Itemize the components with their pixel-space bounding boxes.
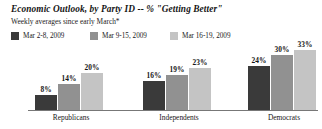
- bar-independents-series-2[interactable]: 23%: [189, 68, 211, 110]
- bar-republicans-series-2[interactable]: 20%: [81, 73, 103, 110]
- x-axis-line: [28, 110, 318, 111]
- bar-group-republicans: 8% 14% 20% Republicans: [35, 46, 107, 110]
- chart-title: Economic Outlook, by Party ID -- % "Gett…: [11, 4, 222, 14]
- x-axis-label-independents: Independents: [159, 113, 198, 122]
- legend-item-series-1[interactable]: Mar 9-15, 2009: [90, 32, 147, 40]
- chart-legend: Mar 2-8, 2009 Mar 9-15, 2009 Mar 16-19, …: [11, 32, 311, 44]
- legend-item-series-0[interactable]: Mar 2-8, 2009: [11, 32, 64, 40]
- bar-group-independents: 16% 19% 23% Independents: [143, 46, 215, 110]
- legend-label-series-1: Mar 9-15, 2009: [102, 32, 147, 40]
- bar-value-independents-series-0: 16%: [147, 71, 162, 80]
- x-axis-label-democrats: Democrats: [268, 113, 300, 122]
- bar-democrats-series-2[interactable]: 33%: [294, 50, 316, 110]
- bar-group-democrats: 24% 30% 33% Democrats: [248, 46, 320, 110]
- bars-republicans: 8% 14% 20%: [35, 46, 107, 110]
- bar-value-democrats-series-2: 33%: [298, 40, 313, 49]
- legend-label-series-0: Mar 2-8, 2009: [23, 32, 64, 40]
- plot-area: 8% 14% 20% Republicans 16% 19%: [0, 46, 322, 129]
- bar-republicans-series-0[interactable]: 8%: [35, 95, 57, 110]
- legend-item-series-2[interactable]: Mar 16-19, 2009: [170, 32, 231, 40]
- bar-value-democrats-series-1: 30%: [275, 45, 290, 54]
- bar-independents-series-1[interactable]: 19%: [166, 75, 188, 110]
- bar-independents-series-0[interactable]: 16%: [143, 81, 165, 110]
- bar-value-democrats-series-0: 24%: [252, 56, 267, 65]
- bars-independents: 16% 19% 23%: [143, 46, 215, 110]
- bar-value-republicans-series-0: 8%: [40, 85, 51, 94]
- legend-label-series-2: Mar 16-19, 2009: [182, 32, 231, 40]
- x-axis-label-republicans: Republicans: [53, 113, 90, 122]
- chart-container: Economic Outlook, by Party ID -- % "Gett…: [0, 0, 322, 129]
- bar-value-republicans-series-1: 14%: [62, 74, 77, 83]
- bar-value-republicans-series-2: 20%: [85, 63, 100, 72]
- chart-subtitle: Weekly averages since early March*: [11, 17, 120, 26]
- legend-swatch-icon-series-1: [90, 32, 98, 40]
- legend-swatch-icon-series-2: [170, 32, 178, 40]
- bar-value-independents-series-1: 19%: [170, 65, 185, 74]
- bar-democrats-series-0[interactable]: 24%: [248, 66, 270, 110]
- bar-democrats-series-1[interactable]: 30%: [271, 55, 293, 110]
- bar-republicans-series-1[interactable]: 14%: [58, 84, 80, 110]
- bars-democrats: 24% 30% 33%: [248, 46, 320, 110]
- bar-value-independents-series-2: 23%: [193, 58, 208, 67]
- legend-swatch-icon-series-0: [11, 32, 19, 40]
